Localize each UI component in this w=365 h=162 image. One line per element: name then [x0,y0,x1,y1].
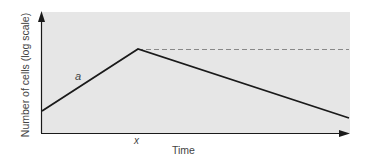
chart [0,0,365,162]
y-axis-label: Number of cells (log scale) [19,13,31,137]
x-tick-label: x [134,135,139,146]
x-axis-label: Time [172,144,195,156]
plot-area [42,12,350,133]
segment-label-a: a [75,70,81,82]
